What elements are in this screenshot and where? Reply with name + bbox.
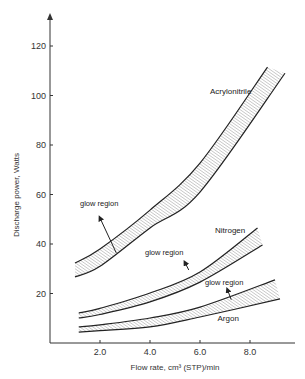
y-tick-label: 20	[36, 289, 46, 299]
y-tick-label: 120	[31, 41, 46, 51]
y-tick-label: 100	[31, 91, 46, 101]
y-tick-label: 60	[36, 190, 46, 200]
y-tick-label: 40	[36, 239, 46, 249]
x-axis-label: Flow rate, cm³ (STP)/min	[131, 363, 220, 372]
glow-region-label: glow region	[145, 248, 183, 257]
chart: 204060801001202.04.06.08.0 Discharge pow…	[0, 0, 305, 379]
x-tick-label: 4.0	[144, 347, 157, 357]
acrylonitrile-label: Acrylonitrile	[210, 87, 252, 96]
y-tick-label: 80	[36, 140, 46, 150]
x-tick-label: 8.0	[244, 347, 257, 357]
x-tick-label: 2.0	[94, 347, 107, 357]
nitrogen-label: Nitrogen	[215, 226, 245, 235]
argon-label: Argon	[218, 314, 239, 323]
glow-region-label: glow region	[205, 278, 243, 287]
y-axis-arrow-icon	[47, 13, 53, 20]
glow-region-label: glow region	[80, 199, 118, 208]
y-axis-label: Discharge power, Watts	[12, 153, 21, 237]
x-tick-label: 6.0	[194, 347, 207, 357]
arrow-icon	[185, 263, 189, 270]
